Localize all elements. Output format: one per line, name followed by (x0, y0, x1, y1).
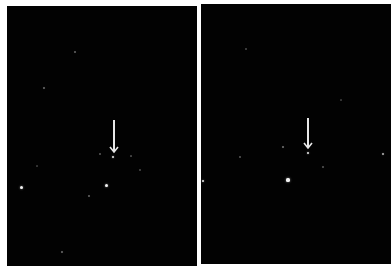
star (239, 156, 240, 157)
arrow-down-icon (303, 118, 313, 149)
star (245, 48, 246, 49)
star (20, 186, 23, 189)
star (130, 155, 131, 156)
star (99, 153, 100, 154)
star (322, 166, 324, 168)
star (340, 99, 341, 100)
left-star-field-panel (7, 6, 197, 266)
star (112, 156, 115, 159)
right-star-field-panel (201, 4, 391, 264)
star (382, 153, 384, 155)
star (307, 152, 310, 155)
star (282, 146, 284, 148)
star (43, 87, 45, 89)
arrow-down-icon (109, 120, 119, 153)
star (88, 195, 89, 196)
star (36, 165, 37, 166)
star (74, 51, 76, 53)
star (286, 178, 289, 181)
star (202, 180, 205, 183)
star (61, 251, 63, 253)
star (139, 169, 140, 170)
star (105, 184, 108, 187)
